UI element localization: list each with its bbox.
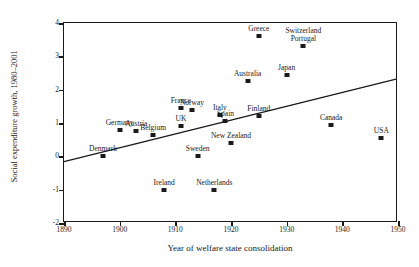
- y-axis-tick: [59, 56, 64, 58]
- data-point-label: Portugal: [291, 35, 316, 43]
- x-axis-tick-label: 1950: [391, 226, 406, 234]
- data-point: [284, 73, 289, 77]
- data-point-label: Netherlands: [196, 178, 232, 186]
- data-point-label: Switzerland: [285, 27, 321, 35]
- data-point-label: Belgium: [140, 123, 166, 131]
- data-point: [256, 114, 261, 118]
- plot-area: -2-1012341890190019101920193019401950Den…: [63, 22, 397, 222]
- data-point: [100, 154, 105, 158]
- x-axis-tick-label: 1940: [335, 226, 350, 234]
- data-point-label: USA: [374, 127, 389, 135]
- data-point: [195, 154, 200, 158]
- data-point-label: New Zealand: [211, 132, 251, 140]
- data-point: [117, 128, 122, 132]
- data-point-label: Norway: [180, 98, 204, 106]
- y-axis-tick-label: 1: [55, 119, 59, 127]
- y-axis-tick-label: 4: [55, 19, 59, 27]
- data-point-label: Spain: [217, 110, 234, 118]
- y-axis-tick: [59, 23, 64, 25]
- y-axis-tick: [59, 190, 64, 192]
- y-axis-tick-label: -1: [53, 186, 59, 194]
- y-axis-title: Social expenditure growth, 1980–2001: [10, 16, 19, 216]
- data-point: [245, 79, 250, 83]
- y-axis-tick-label: 3: [55, 53, 59, 61]
- data-point-label: Denmark: [89, 145, 117, 153]
- data-point: [229, 141, 234, 145]
- x-axis-title: Year of welfare state consolidation: [63, 244, 397, 253]
- x-axis-tick-label: 1930: [279, 226, 294, 234]
- data-point: [212, 188, 217, 192]
- data-point: [329, 123, 334, 127]
- data-point-label: Australia: [234, 70, 262, 78]
- data-point-label: Finland: [247, 105, 270, 113]
- data-point-label: Canada: [320, 113, 343, 121]
- data-point-label: Greece: [248, 25, 269, 33]
- y-axis-tick-label: 0: [55, 153, 59, 161]
- x-axis-tick-label: 1890: [57, 226, 72, 234]
- data-point-label: UK: [175, 115, 186, 123]
- x-axis-tick-label: 1910: [168, 226, 183, 234]
- data-point: [178, 124, 183, 128]
- data-point-label: Ireland: [154, 178, 175, 186]
- x-axis-tick-label: 1920: [224, 226, 239, 234]
- data-point-label: Sweden: [186, 145, 210, 153]
- data-point: [379, 136, 384, 140]
- data-point-label: Japan: [278, 63, 295, 71]
- data-point: [256, 34, 261, 38]
- y-axis-tick-label: 2: [55, 86, 59, 94]
- data-point: [162, 188, 167, 192]
- data-point: [134, 129, 139, 133]
- x-axis-tick-label: 1900: [112, 226, 127, 234]
- y-axis-tick: [59, 156, 64, 158]
- data-point: [190, 108, 195, 112]
- y-axis-tick: [59, 90, 64, 92]
- data-point: [223, 119, 228, 123]
- data-point: [151, 133, 156, 137]
- data-point: [178, 106, 183, 110]
- scatter-chart-figure: Social expenditure growth, 1980–2001 -2-…: [0, 0, 419, 267]
- data-point: [301, 44, 306, 48]
- y-axis-tick: [59, 123, 64, 125]
